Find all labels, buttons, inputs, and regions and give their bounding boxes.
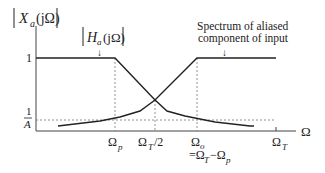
y-tick-one: 1 <box>26 51 32 65</box>
dashed-guides <box>36 58 276 131</box>
svg-text:1: 1 <box>26 105 32 117</box>
svg-text:T: T <box>282 142 288 152</box>
svg-text:a: a <box>30 18 35 29</box>
svg-text:a: a <box>97 37 102 47</box>
svg-text:p: p <box>225 155 231 165</box>
svg-text:(jΩ): (jΩ) <box>103 30 125 45</box>
svg-text:Ω: Ω <box>191 135 200 149</box>
svg-text:A: A <box>23 118 31 130</box>
omega-o-note: =Ω T −Ω p <box>189 148 231 165</box>
filter-label: H a (jΩ) ↓ <box>83 27 125 58</box>
svg-text:=Ω: =Ω <box>189 148 205 162</box>
aliased-label: Spectrum of aliased component of input ↓ <box>197 20 289 58</box>
svg-text:/2: /2 <box>154 135 163 149</box>
svg-text:X: X <box>18 10 29 26</box>
svg-text:component of input: component of input <box>198 32 289 45</box>
svg-text:p: p <box>117 142 123 152</box>
svg-text:Ω: Ω <box>272 135 281 149</box>
arrow-down-icon: ↓ <box>97 47 102 58</box>
x-axis-label: Ω <box>301 124 311 139</box>
x-tick-omega-t-half: Ω T /2 <box>138 135 163 152</box>
x-tick-omega-p: Ω p <box>108 135 123 152</box>
svg-text:Ω: Ω <box>108 135 117 149</box>
aliased-spectrum-curve <box>58 58 276 126</box>
filter-response-curve <box>36 58 254 126</box>
aliasing-diagram: X a (jΩ) H a (jΩ) ↓ Spectrum of aliased … <box>0 0 325 173</box>
x-tick-omega-t: Ω T <box>272 135 288 152</box>
y-axis-title: X a (jΩ) <box>14 8 60 29</box>
arrow-down-icon: ↓ <box>222 47 227 58</box>
svg-text:(jΩ): (jΩ) <box>36 11 60 27</box>
svg-text:−Ω: −Ω <box>210 148 226 162</box>
svg-text:Ω: Ω <box>138 135 147 149</box>
y-tick-inv-a: 1 A <box>23 105 32 130</box>
